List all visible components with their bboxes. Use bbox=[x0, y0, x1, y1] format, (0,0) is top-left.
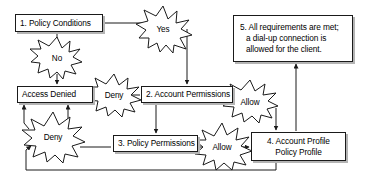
diagram-canvas: Yes No Deny Deny Allow Allow 1. Policy C… bbox=[0, 0, 366, 179]
node-account-permissions: 2. Account Permissions bbox=[141, 86, 233, 103]
node-access-denied: Access Denied bbox=[17, 86, 93, 103]
burst-allow-upper-label: Allow bbox=[240, 98, 259, 107]
burst-yes-label: Yes bbox=[156, 25, 169, 34]
burst-deny-lower-label: Deny bbox=[44, 133, 63, 142]
node-policy-permissions: 3. Policy Permissions bbox=[113, 135, 198, 152]
burst-allow-lower-label: Allow bbox=[212, 143, 231, 152]
burst-deny-upper-label: Deny bbox=[105, 91, 124, 100]
node-access-denied-line-1: Access Denied bbox=[22, 89, 76, 100]
node-account-profile: 4. Account Profile Policy Profile bbox=[251, 132, 346, 161]
node-account-permissions-line-1: 2. Account Permissions bbox=[146, 89, 230, 100]
node-policy-permissions-line-1: 3. Policy Permissions bbox=[118, 138, 195, 149]
node-account-profile-line-2: Policy Profile bbox=[275, 147, 322, 158]
node-requirements-met: 5. All requirements are met; a dial-up c… bbox=[233, 15, 353, 62]
node-requirements-met-line-3: allowed for the client. bbox=[240, 44, 322, 55]
node-policy-conditions-line-1: 1. Policy Conditions bbox=[20, 18, 91, 29]
node-account-profile-line-1: 4. Account Profile bbox=[267, 136, 330, 147]
connector-deny-lower-to-access-denied-left bbox=[24, 105, 29, 129]
burst-no-label: No bbox=[52, 54, 62, 63]
node-policy-conditions: 1. Policy Conditions bbox=[15, 14, 103, 32]
node-requirements-met-line-2: a dial-up connection is bbox=[240, 33, 326, 44]
node-requirements-met-line-1: 5. All requirements are met; bbox=[240, 22, 339, 33]
